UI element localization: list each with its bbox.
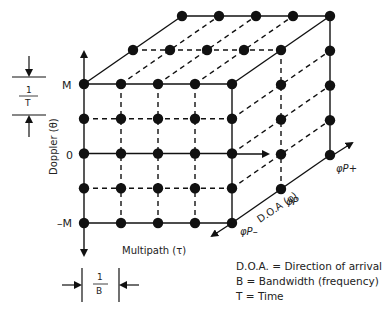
doa-axis-forward-arrow — [330, 143, 352, 157]
grid-node — [79, 148, 89, 158]
grid-node — [251, 11, 261, 21]
grid-node — [190, 114, 200, 124]
cube-diagram: M 0 –M Doppler (θ) Multipath (τ) D.O.A (… — [0, 0, 387, 314]
grid-node — [128, 45, 138, 55]
grid-node — [288, 11, 298, 21]
grid-node — [116, 148, 126, 158]
grid-node — [153, 79, 163, 89]
grid-node — [227, 183, 237, 193]
grid-node — [153, 114, 163, 124]
doppler-tick-neg-m: –M — [57, 217, 72, 230]
doppler-tick-m: M — [62, 79, 72, 92]
time-spacing-denominator: T — [24, 98, 31, 108]
grid-node — [116, 183, 126, 193]
grid-node — [276, 114, 286, 124]
grid-node — [190, 183, 200, 193]
grid-node — [116, 79, 126, 89]
doa-axis-back-arrow — [212, 223, 232, 236]
doa-tick-p: φP — [286, 196, 300, 207]
legend-bandwidth: B = Bandwidth (frequency) — [236, 275, 379, 287]
grid-node — [325, 11, 335, 21]
grid-node — [190, 79, 200, 89]
grid-node — [177, 11, 187, 21]
grid-node — [276, 80, 286, 90]
doppler-tick-zero: 0 — [66, 149, 73, 162]
grid-node — [325, 46, 335, 56]
grid-node — [202, 45, 212, 55]
grid-node — [325, 115, 335, 125]
time-spacing-indicator — [12, 56, 46, 137]
doa-tick-p-plus: φP+ — [336, 163, 357, 174]
time-spacing-numerator: 1 — [26, 85, 32, 95]
grid-node — [153, 148, 163, 158]
grid-node — [116, 114, 126, 124]
grid-node — [153, 218, 163, 228]
bandwidth-spacing-numerator: 1 — [97, 272, 103, 282]
doppler-axis-label: Doppler (θ) — [48, 118, 59, 175]
grid-node — [153, 183, 163, 193]
grid-node — [116, 218, 126, 228]
grid-node — [276, 184, 286, 194]
grid-node — [165, 45, 175, 55]
grid-node — [214, 11, 224, 21]
grid-node — [190, 148, 200, 158]
grid-node — [276, 149, 286, 159]
grid-node — [190, 218, 200, 228]
grid-node — [79, 114, 89, 124]
legend-time: T = Time — [235, 290, 284, 302]
grid-node — [79, 183, 89, 193]
grid-node — [276, 45, 286, 55]
grid-node — [227, 114, 237, 124]
bandwidth-spacing-denominator: B — [96, 286, 102, 296]
multipath-axis-label: Multipath (τ) — [122, 245, 186, 256]
doa-tick-p-minus: φP– — [240, 226, 258, 237]
grid-node — [239, 45, 249, 55]
grid-node — [227, 79, 237, 89]
legend-doa: D.O.A. = Direction of arrival — [236, 260, 382, 272]
grid-node — [325, 80, 335, 90]
